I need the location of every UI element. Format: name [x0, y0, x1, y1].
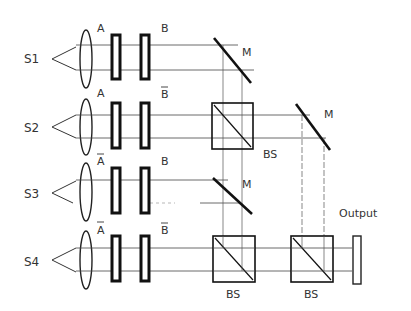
mask-b [141, 103, 149, 148]
source-label-s1: S1 [24, 52, 39, 66]
mask-b [141, 236, 149, 281]
lens-icon [80, 30, 92, 88]
source-row-s2: S2 A B [24, 87, 326, 155]
mask-label-b-bar: B [161, 224, 169, 237]
mask-a [112, 236, 120, 281]
mask-label-a-bar: A [97, 155, 105, 168]
mirror-label: M [324, 108, 334, 121]
mirror-label: M [242, 46, 252, 59]
lens-icon [80, 163, 92, 221]
source-rays [52, 181, 76, 203]
lens-icon [80, 231, 92, 289]
beam-splitter-3: BS [291, 236, 333, 301]
beam-splitter-2: BS [213, 236, 255, 301]
source-label-s2: S2 [24, 121, 39, 135]
mask-b [141, 168, 149, 213]
mask-a [112, 35, 120, 79]
lens-icon [80, 99, 92, 155]
mask-a [112, 168, 120, 213]
source-row-s1: S1 A B [24, 22, 254, 88]
mask-label-b: B [161, 155, 169, 168]
mask-label-b-bar: B [161, 88, 169, 101]
source-rays [52, 115, 76, 138]
source-label-s3: S3 [24, 187, 39, 201]
beam-splitter-1: BS [212, 103, 277, 161]
bs-label: BS [226, 288, 240, 301]
source-label-s4: S4 [24, 255, 39, 269]
mask-label-a-bar: A [97, 224, 105, 237]
bs-label: BS [304, 288, 318, 301]
source-rays [52, 248, 76, 272]
mask-b [141, 35, 149, 79]
source-rays [52, 47, 76, 70]
source-row-s3: S3 A B [24, 154, 240, 221]
output-label: Output [339, 207, 378, 220]
bs-label: BS [263, 148, 277, 161]
output-detector [353, 236, 361, 284]
optical-diagram: S1 A B S2 A B S3 A B S4 [0, 0, 411, 311]
mirror-label: M [242, 178, 252, 191]
mask-label-b: B [161, 22, 169, 35]
mask-a [112, 103, 120, 148]
mask-label-a: A [97, 22, 105, 35]
mask-label-a: A [97, 87, 105, 100]
